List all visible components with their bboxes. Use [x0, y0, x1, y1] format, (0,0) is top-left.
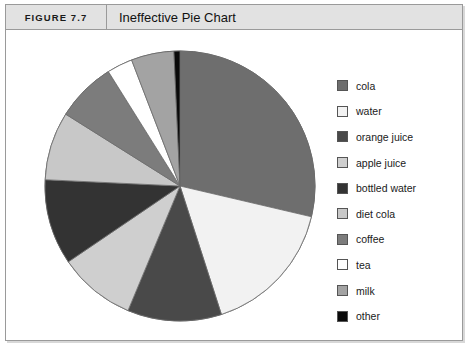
legend-item: cola	[337, 73, 457, 99]
legend-label: water	[356, 105, 382, 117]
legend-swatch-icon	[337, 259, 348, 270]
legend-swatch-icon	[337, 131, 348, 142]
legend-label: bottled water	[356, 182, 416, 194]
legend-swatch-icon	[337, 285, 348, 296]
legend-swatch-icon	[337, 234, 348, 245]
legend-item: milk	[337, 278, 457, 304]
figure-title: Ineffective Pie Chart	[107, 10, 236, 25]
legend-item: other	[337, 303, 457, 329]
legend-swatch-icon	[337, 106, 348, 117]
pie-slice-group	[45, 51, 315, 321]
legend-item: apple juice	[337, 150, 457, 176]
pie-chart-svg	[40, 46, 320, 326]
figure-header: FIGURE 7.7 Ineffective Pie Chart	[6, 5, 462, 30]
legend-label: coffee	[356, 233, 384, 245]
pie-chart	[40, 46, 320, 326]
legend-swatch-icon	[337, 80, 348, 91]
legend-label: cola	[356, 80, 375, 92]
legend-item: orange juice	[337, 124, 457, 150]
legend-label: diet cola	[356, 208, 395, 220]
figure-number: FIGURE 7.7	[6, 12, 106, 23]
legend-swatch-icon	[337, 157, 348, 168]
legend-item: diet cola	[337, 201, 457, 227]
legend-label: milk	[356, 285, 375, 297]
legend-swatch-icon	[337, 311, 348, 322]
legend-item: tea	[337, 252, 457, 278]
legend-label: other	[356, 310, 380, 322]
legend-item: coffee	[337, 227, 457, 253]
legend-label: apple juice	[356, 157, 406, 169]
figure-box: FIGURE 7.7 Ineffective Pie Chart colawat…	[5, 4, 463, 341]
legend-label: orange juice	[356, 131, 413, 143]
chart-legend: colawaterorange juiceapple juicebottled …	[337, 73, 457, 329]
legend-item: bottled water	[337, 175, 457, 201]
legend-label: tea	[356, 259, 371, 271]
legend-swatch-icon	[337, 208, 348, 219]
legend-item: water	[337, 99, 457, 125]
figure-body: colawaterorange juiceapple juicebottled …	[6, 30, 462, 340]
legend-swatch-icon	[337, 183, 348, 194]
